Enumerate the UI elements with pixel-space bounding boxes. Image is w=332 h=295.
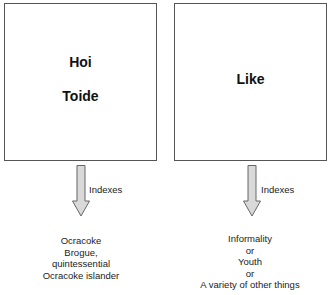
meaning-line: A variety of other things: [170, 279, 330, 291]
down-arrow-icon: [72, 165, 90, 217]
indexed-meanings-right: Informality or Youth or A variety of oth…: [170, 233, 330, 291]
term-box-like: Like: [174, 3, 327, 161]
meaning-line: Brogue,: [1, 247, 161, 259]
down-arrow-icon: [243, 165, 261, 217]
term-line: Like: [236, 71, 264, 88]
indexed-meanings-left: Ocracoke Brogue, quintessential Ocracoke…: [1, 235, 161, 281]
meaning-line: quintessential: [1, 258, 161, 270]
meaning-line: or: [170, 268, 330, 280]
term-line: Hoi: [62, 54, 98, 71]
term-label: Like: [236, 54, 264, 105]
meaning-line: Ocracoke: [1, 235, 161, 247]
term-line: Toide: [62, 88, 98, 105]
meaning-line: Informality: [170, 233, 330, 245]
term-label: Hoi Toide: [62, 37, 98, 122]
meaning-line: Youth: [170, 256, 330, 268]
term-box-hoi-toide: Hoi Toide: [4, 3, 157, 161]
arrow-label: Indexes: [261, 184, 294, 195]
meaning-line: Ocracoke islander: [1, 270, 161, 282]
arrow-label: Indexes: [89, 184, 122, 195]
meaning-line: or: [170, 245, 330, 257]
